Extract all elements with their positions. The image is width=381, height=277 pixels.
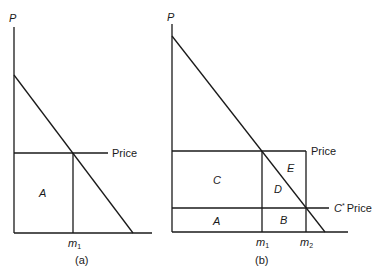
price-label-b: Price	[311, 145, 336, 157]
region-b-label: B	[280, 214, 287, 226]
region-c-label: C	[213, 174, 221, 186]
m2-label-b: m2	[300, 236, 313, 249]
m1-label-b: m1	[256, 236, 269, 249]
caption-b: (b)	[255, 254, 268, 266]
region-d-label: D	[274, 183, 282, 195]
caption-a: (a)	[75, 254, 88, 266]
panel-b: P Price C*Price C A D E B m1 m2 (b)	[167, 11, 372, 266]
region-e-label: E	[287, 162, 295, 174]
y-axis-label-a: P	[9, 12, 17, 24]
m1-label-a: m1	[68, 237, 81, 250]
demand-curve-b	[172, 36, 325, 232]
y-axis-label-b: P	[167, 11, 175, 23]
region-a-label-b: A	[212, 215, 220, 227]
cstar-price-label-b: C*Price	[334, 202, 372, 214]
price-label-a: Price	[112, 147, 137, 159]
diagram-canvas: P Price A m1 (a) P Price C*Price C A D E…	[0, 0, 381, 277]
panel-a: P Price A m1 (a)	[9, 12, 152, 266]
region-a-label: A	[38, 187, 46, 199]
